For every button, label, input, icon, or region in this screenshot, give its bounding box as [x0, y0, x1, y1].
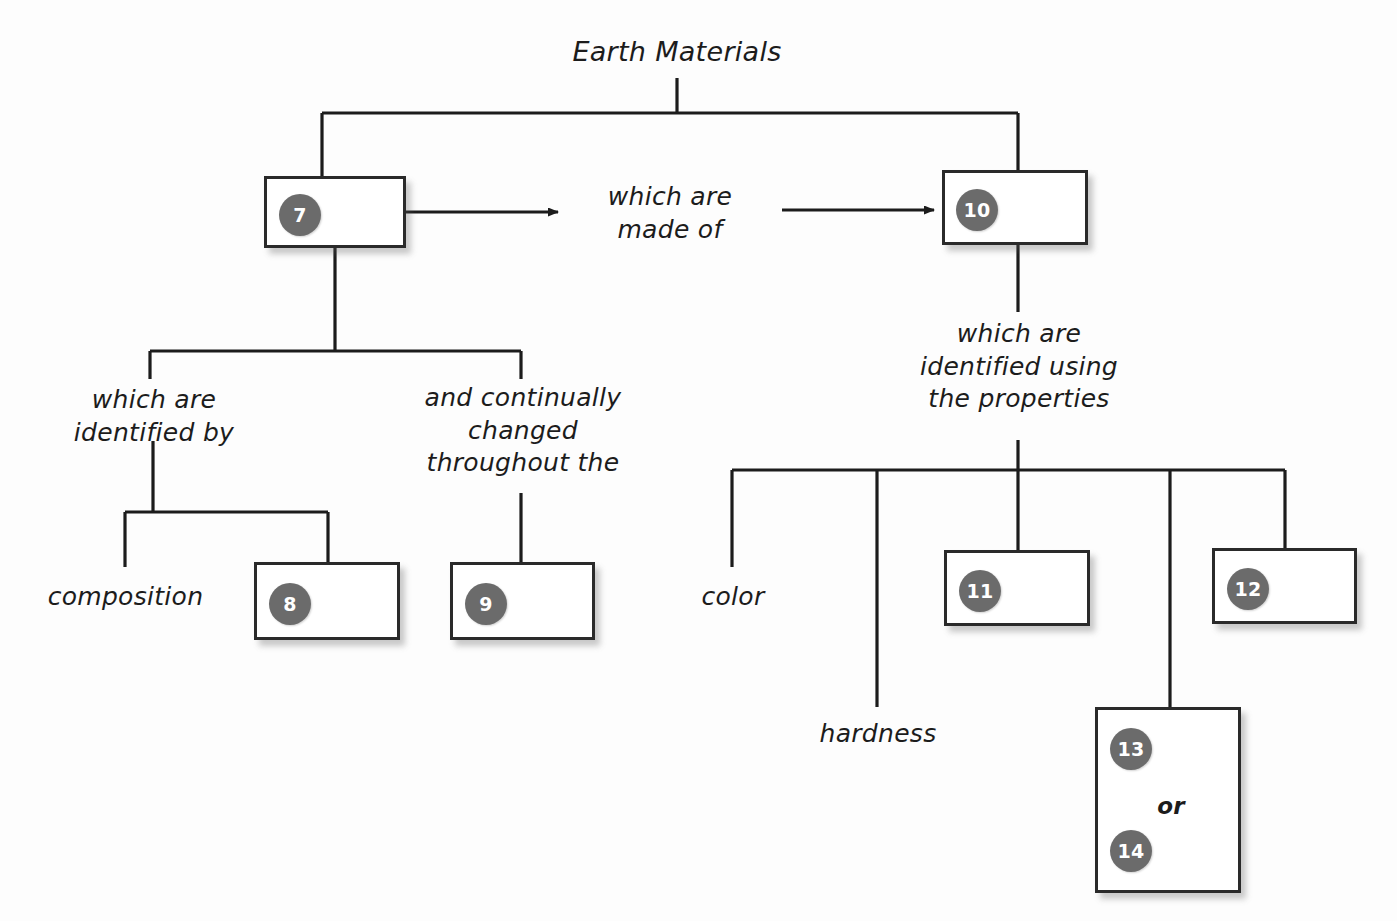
leaf-label-color: color: [662, 581, 804, 614]
diagram-title: Earth Materials: [527, 34, 827, 69]
node-box-8[interactable]: 8: [254, 562, 400, 640]
concept-map-diagram: Earth Materials which are made of which …: [0, 0, 1397, 921]
node-badge-9: 9: [465, 583, 507, 625]
node-badge-12: 12: [1227, 568, 1269, 610]
node-box-12[interactable]: 12: [1212, 548, 1357, 624]
connector-label-and-continually-changed: and continually changed throughout the: [403, 382, 643, 480]
connector-label-which-are-made-of: which are made of: [570, 181, 770, 246]
node-badge-8: 8: [269, 583, 311, 625]
node-badge-11: 11: [959, 570, 1001, 612]
node-badge-7: 7: [279, 194, 321, 236]
connector-label-which-are-identified-using-the-properties: which are identified using the propertie…: [898, 318, 1140, 416]
node-box-11[interactable]: 11: [944, 550, 1090, 626]
node-badge-10: 10: [956, 189, 998, 231]
node-box-10[interactable]: 10: [942, 170, 1088, 245]
node-box-7[interactable]: 7: [264, 176, 406, 248]
node-badge-13: 13: [1110, 728, 1152, 770]
node-badge-14: 14: [1110, 830, 1152, 872]
leaf-label-composition: composition: [22, 581, 229, 614]
connector-label-which-are-identified-by: which are identified by: [43, 384, 265, 449]
node-box-13-14[interactable]: 13 or 14: [1095, 707, 1241, 893]
node-box-9[interactable]: 9: [450, 562, 595, 640]
leaf-label-hardness: hardness: [793, 718, 963, 751]
node-13-14-or-label: or: [1098, 792, 1244, 822]
